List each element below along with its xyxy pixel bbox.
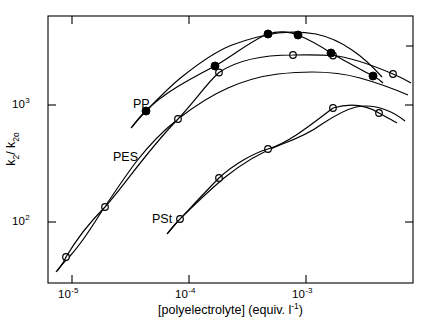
y-axis-title: k2/ k2o <box>4 119 18 179</box>
series-pst-overlay <box>167 105 397 234</box>
series-pes-overlay <box>57 55 411 271</box>
series-pst-curve-2 <box>167 105 397 234</box>
x-axis-tick-label-1e-5: 10-5 <box>58 288 78 300</box>
y-axis-ticks <box>48 46 413 222</box>
chart-plot-area <box>0 0 435 326</box>
x-axis-tick-label-1e-3: 10-3 <box>292 288 312 300</box>
y-axis-tick-label-100: 102 <box>12 215 30 227</box>
series-pp-line <box>132 32 382 127</box>
series-label-pp: PP <box>133 97 150 111</box>
figure-container: 103 102 10-5 10-4 10-3 k2/ k2o [polyelec… <box>0 0 435 326</box>
series-pst-curve <box>168 106 405 233</box>
series-label-pes: PES <box>113 150 138 164</box>
series-pes-curve <box>57 55 411 271</box>
series-pes <box>56 52 408 272</box>
x-axis-tick-label-1e-4: 10-4 <box>175 288 195 300</box>
series-label-pst: PSt <box>152 212 172 226</box>
series-pst <box>168 105 405 233</box>
x-axis-title: [polyelectrolyte] (equiv. l-1) <box>48 303 413 317</box>
y-axis-tick-label-1000: 103 <box>12 98 30 110</box>
